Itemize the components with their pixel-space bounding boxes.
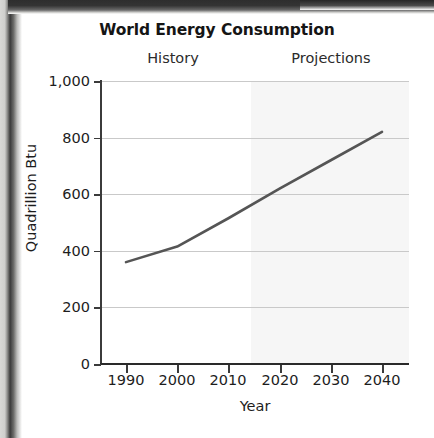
- scanned-chart-page: World Energy Consumption History Project…: [0, 0, 434, 438]
- chart-plot-area: [0, 0, 434, 438]
- series-line-world-energy: [126, 132, 382, 262]
